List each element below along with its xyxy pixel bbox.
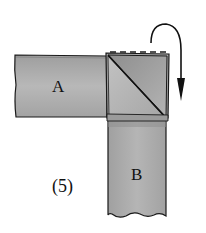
step-label: (5) xyxy=(52,176,73,197)
strip-a: A xyxy=(15,55,107,117)
strip-a-label: A xyxy=(52,77,65,96)
strip-b: B xyxy=(108,119,166,217)
strip-b-label: B xyxy=(131,165,142,184)
folding-diagram: A B (5) xyxy=(0,0,206,233)
folded-corner xyxy=(106,52,169,121)
